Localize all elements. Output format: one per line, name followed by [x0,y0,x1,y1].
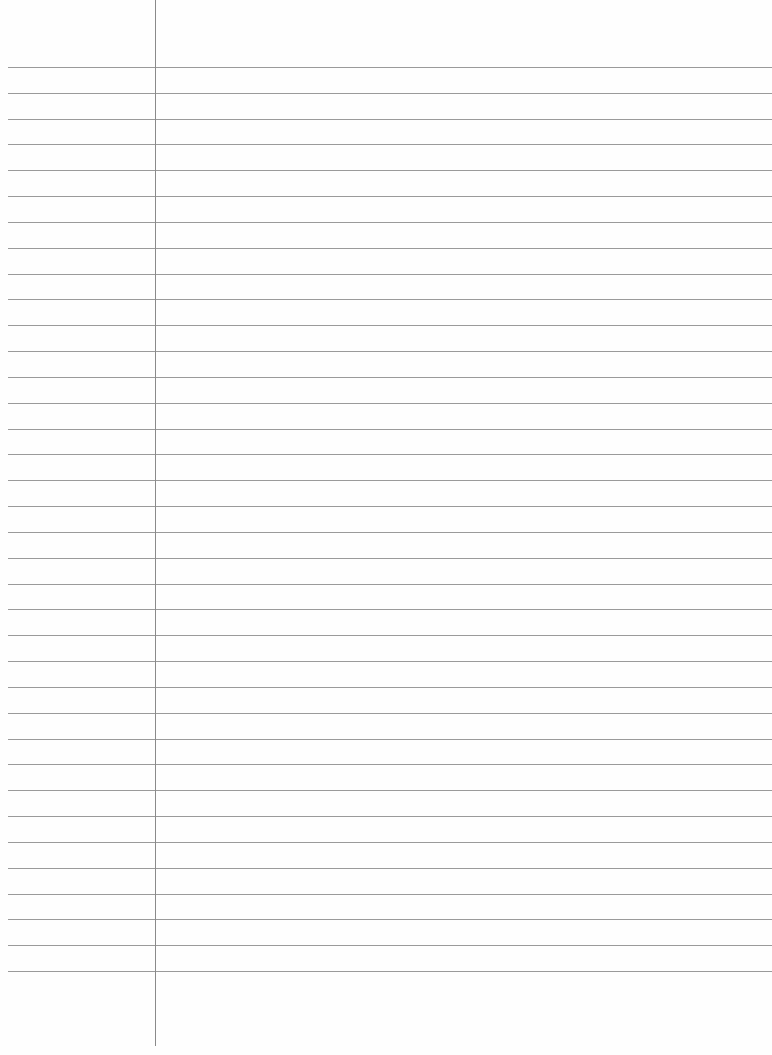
ruled-line [8,739,772,740]
ruled-line [8,325,772,326]
ruled-line [8,351,772,352]
ruled-line [8,687,772,688]
ruled-line [8,584,772,585]
ruled-line [8,248,772,249]
ruled-line [8,764,772,765]
ruled-line [8,842,772,843]
ruled-line [8,429,772,430]
ruled-line [8,93,772,94]
ruled-line [8,403,772,404]
ruled-line [8,222,772,223]
ruled-line [8,635,772,636]
ruled-line [8,919,772,920]
ruled-line [8,67,772,68]
ruled-line [8,894,772,895]
ruled-line [8,119,772,120]
ruled-line [8,790,772,791]
ruled-line [8,506,772,507]
ruled-line [8,816,772,817]
ruled-line [8,144,772,145]
ruled-line [8,661,772,662]
ruled-line [8,971,772,972]
ruled-line [8,532,772,533]
ruled-line [8,196,772,197]
ruled-line [8,480,772,481]
ruled-line [8,945,772,946]
ruled-line [8,170,772,171]
ruled-line [8,558,772,559]
ruled-line [8,299,772,300]
ruled-line [8,868,772,869]
ruled-line [8,713,772,714]
ruled-line [8,609,772,610]
ruled-line [8,454,772,455]
ruled-line [8,274,772,275]
lined-paper [0,0,772,1055]
ruled-line [8,377,772,378]
margin-line [155,0,156,1046]
